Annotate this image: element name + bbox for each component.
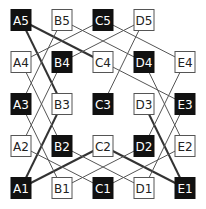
node-label: D2	[136, 140, 153, 154]
node-label: C2	[95, 140, 111, 154]
node-d5: D5	[134, 10, 154, 31]
node-a4: A4	[11, 52, 31, 73]
node-label: B3	[54, 98, 70, 112]
node-a1: A1	[11, 178, 31, 199]
node-d3: D3	[134, 94, 154, 115]
node-b2: B2	[52, 136, 72, 157]
node-label: A5	[13, 14, 29, 28]
node-label: A4	[13, 56, 29, 70]
grid-graph-diagram: A5B5C5D5A4B4C4D4E4A3B3C3D3E3A2B2C2D2E2A1…	[0, 0, 206, 209]
node-b4: B4	[52, 52, 72, 73]
node-label: D5	[136, 14, 153, 28]
node-c1: C1	[93, 178, 113, 199]
node-a5: A5	[11, 10, 31, 31]
node-label: C1	[95, 182, 111, 196]
node-b5: B5	[52, 10, 72, 31]
node-label: B2	[54, 140, 70, 154]
node-label: B5	[54, 14, 70, 28]
node-label: A3	[13, 98, 29, 112]
node-label: C5	[95, 14, 111, 28]
node-a2: A2	[11, 136, 31, 157]
node-e3: E3	[175, 94, 195, 115]
node-a3: A3	[11, 94, 31, 115]
node-d2: D2	[134, 136, 154, 157]
node-label: E3	[177, 98, 192, 112]
node-b1: B1	[52, 178, 72, 199]
node-b3: B3	[52, 94, 72, 115]
node-c4: C4	[93, 52, 113, 73]
node-label: B1	[54, 182, 70, 196]
node-e4: E4	[175, 52, 195, 73]
node-e2: E2	[175, 136, 195, 157]
node-label: D1	[136, 182, 153, 196]
nodes-layer: A5B5C5D5A4B4C4D4E4A3B3C3D3E3A2B2C2D2E2A1…	[11, 10, 195, 199]
node-c3: C3	[93, 94, 113, 115]
node-label: E2	[177, 140, 192, 154]
node-label: C3	[95, 98, 111, 112]
node-label: A2	[13, 140, 29, 154]
node-e1: E1	[175, 178, 195, 199]
node-label: E1	[177, 182, 192, 196]
node-c5: C5	[93, 10, 113, 31]
node-label: C4	[95, 56, 111, 70]
node-label: E4	[177, 56, 192, 70]
node-label: B4	[54, 56, 70, 70]
node-label: A1	[13, 182, 29, 196]
node-c2: C2	[93, 136, 113, 157]
node-label: D4	[136, 56, 153, 70]
node-label: D3	[136, 98, 153, 112]
node-d1: D1	[134, 178, 154, 199]
node-d4: D4	[134, 52, 154, 73]
